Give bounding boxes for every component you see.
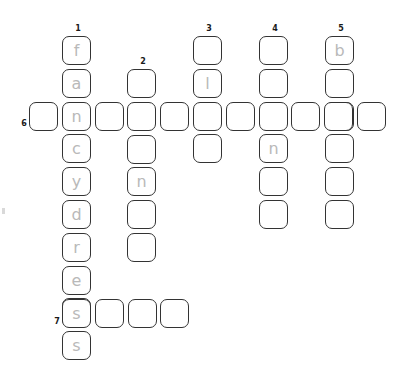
crossword-cell-2d-3[interactable] bbox=[127, 135, 156, 164]
crossword-cell-6a-5[interactable] bbox=[160, 102, 189, 131]
crossword-puzzle: fancydressnlnbs1234567 bbox=[0, 0, 410, 384]
edge-artifact bbox=[2, 208, 5, 214]
clue-number-4: 4 bbox=[269, 24, 281, 33]
crossword-cell-2d-1[interactable] bbox=[127, 69, 156, 98]
crossword-cell-6a-7[interactable] bbox=[226, 102, 255, 131]
crossword-cell-1d-4[interactable]: c bbox=[62, 134, 91, 163]
crossword-cell-3d-3[interactable] bbox=[193, 102, 222, 131]
crossword-cell-6a-11[interactable] bbox=[357, 102, 386, 131]
clue-number-5: 5 bbox=[335, 24, 347, 33]
crossword-cell-2d-6[interactable] bbox=[127, 233, 156, 262]
crossword-cell-1d-1[interactable]: f bbox=[62, 36, 91, 65]
crossword-cell-6a-3[interactable] bbox=[95, 102, 124, 131]
crossword-cell-6a-9[interactable] bbox=[291, 102, 320, 131]
crossword-cell-3d-1[interactable] bbox=[193, 36, 222, 65]
crossword-cell-1d-10[interactable]: s bbox=[62, 331, 91, 360]
crossword-cell-1d-3[interactable]: n bbox=[62, 102, 91, 131]
crossword-cell-4d-2[interactable] bbox=[259, 69, 288, 98]
crossword-cell-4d-6[interactable] bbox=[259, 200, 288, 229]
clue-number-2: 2 bbox=[137, 57, 149, 66]
crossword-cell-5d-1[interactable]: b bbox=[325, 36, 354, 65]
crossword-cell-2d-4[interactable]: n bbox=[127, 167, 156, 196]
crossword-cell-1d-8[interactable]: e bbox=[62, 266, 91, 295]
crossword-cell-5d-2[interactable] bbox=[325, 69, 354, 98]
crossword-cell-2d-2[interactable] bbox=[127, 102, 156, 131]
crossword-cell-1d-7[interactable]: r bbox=[62, 233, 91, 262]
crossword-cell-7a-1[interactable]: s bbox=[62, 299, 91, 328]
crossword-cell-1d-6[interactable]: d bbox=[62, 200, 91, 229]
crossword-cell-5d-4[interactable] bbox=[325, 134, 354, 163]
crossword-cell-7a-2[interactable] bbox=[95, 299, 124, 328]
crossword-cell-4d-5[interactable] bbox=[259, 167, 288, 196]
clue-number-7: 7 bbox=[51, 317, 63, 326]
crossword-cell-3d-2[interactable]: l bbox=[193, 69, 222, 98]
clue-number-3: 3 bbox=[203, 24, 215, 33]
crossword-cell-3d-4[interactable] bbox=[193, 134, 222, 163]
crossword-cell-4d-4[interactable]: n bbox=[259, 134, 288, 163]
crossword-cell-2d-5[interactable] bbox=[127, 200, 156, 229]
clue-number-1: 1 bbox=[72, 24, 84, 33]
crossword-cell-5d-6[interactable] bbox=[325, 200, 354, 229]
crossword-cell-6a-1[interactable] bbox=[29, 102, 58, 131]
crossword-cell-7a-3[interactable] bbox=[128, 299, 157, 328]
crossword-cell-1d-2[interactable]: a bbox=[62, 69, 91, 98]
crossword-cell-4d-1[interactable] bbox=[259, 36, 288, 65]
crossword-cell-5d-5[interactable] bbox=[325, 167, 354, 196]
crossword-cell-7a-4[interactable] bbox=[160, 299, 189, 328]
clue-number-6: 6 bbox=[18, 119, 30, 128]
crossword-cell-1d-5[interactable]: y bbox=[62, 167, 91, 196]
crossword-cell-6a-10[interactable] bbox=[324, 102, 353, 131]
crossword-cell-4d-3[interactable] bbox=[259, 102, 288, 131]
